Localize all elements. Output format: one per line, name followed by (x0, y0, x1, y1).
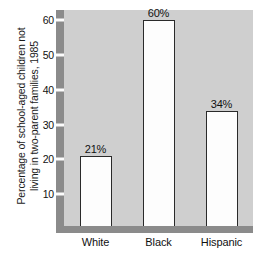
y-tick-mark-50 (56, 54, 64, 57)
y-tick-label-60: 60 (43, 14, 54, 26)
bar-value-label-hispanic: 34% (211, 98, 232, 110)
bar-black: 60% (143, 20, 175, 229)
y-axis-spine (56, 10, 64, 229)
y-tick-label-20: 20 (43, 153, 54, 165)
bar-value-label-white: 21% (85, 143, 106, 155)
bar-white: 21% (80, 156, 112, 229)
x-axis-baseline (56, 226, 253, 233)
plot-area: 21%60%34% (64, 10, 253, 229)
y-tick-label-50: 50 (43, 49, 54, 61)
bar-chart-figure: Percentage of school-aged children not l… (0, 0, 264, 260)
category-label-white: White (82, 236, 110, 248)
y-tick-mark-30 (56, 123, 64, 126)
bar-value-label-black: 60% (148, 7, 169, 19)
y-tick-label-30: 30 (43, 119, 54, 131)
category-label-hispanic: Hispanic (201, 236, 242, 248)
y-tick-mark-20 (56, 158, 64, 161)
category-label-black: Black (145, 236, 171, 248)
bar-hispanic: 34% (206, 111, 238, 229)
y-tick-label-40: 40 (43, 84, 54, 96)
y-tick-mark-40 (56, 88, 64, 91)
y-axis-tick-labels: 102030405060 (28, 10, 54, 229)
y-tick-label-10: 10 (43, 188, 54, 200)
x-axis-category-labels: WhiteBlackHispanic (64, 236, 253, 254)
y-axis-title-line-1: Percentage of school-aged children not (15, 27, 28, 204)
y-tick-mark-10 (56, 193, 64, 196)
y-tick-mark-60 (56, 19, 64, 22)
